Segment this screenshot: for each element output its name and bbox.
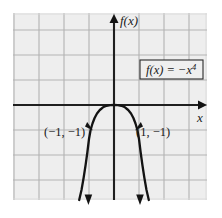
y-axis-label: f(x) <box>120 13 138 28</box>
formula-box: f(x) = −x4 <box>140 60 203 79</box>
plot-background <box>13 13 207 200</box>
annotation-label-right: (1, −1) <box>136 125 170 139</box>
plot-svg: f(x) x (−1, −1) (1, −1) f(x) = −x4 <box>0 0 222 218</box>
x-axis-label: x <box>196 110 203 125</box>
function-graph-figure: f(x) x (−1, −1) (1, −1) f(x) = −x4 <box>0 0 222 218</box>
annotation-label-left: (−1, −1) <box>44 125 85 139</box>
formula-text: f(x) = −x4 <box>146 62 197 78</box>
